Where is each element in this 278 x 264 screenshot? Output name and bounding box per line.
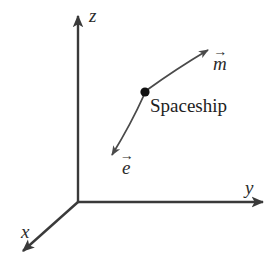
- axis-label-x: x: [21, 222, 29, 241]
- vector-overarrow-e-icon: →: [120, 149, 133, 163]
- axis-x-line: [23, 202, 78, 251]
- diagram-vector-graphics: [0, 0, 278, 264]
- vector-overarrow-m-icon: →: [213, 45, 226, 59]
- diagram-canvas: z y x → m → e Spaceship: [0, 0, 278, 264]
- spaceship-label: Spaceship: [150, 96, 227, 115]
- vector-e-arrow: [112, 95, 144, 155]
- spaceship-point-marker: [140, 87, 149, 96]
- axis-label-y: y: [245, 178, 253, 197]
- axis-label-z: z: [89, 6, 96, 25]
- vector-label-m: → m: [213, 54, 227, 73]
- vector-m-arrow: [147, 50, 208, 90]
- vector-label-e: → e: [122, 158, 130, 177]
